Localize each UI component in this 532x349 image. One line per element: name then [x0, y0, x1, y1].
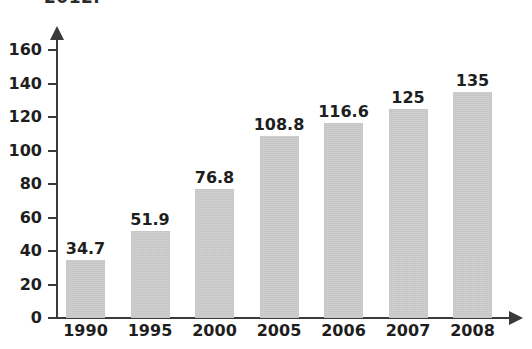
x-axis-label-1990: 1990 [54, 323, 117, 339]
bar-2008 [453, 92, 492, 318]
y-axis-tick [48, 284, 57, 286]
x-axis-label-2006: 2006 [312, 323, 375, 339]
cropped-caption-text: 2012. [44, 0, 100, 7]
bar-1990 [66, 260, 105, 318]
y-axis-tick [48, 317, 57, 319]
bar-2000 [195, 189, 234, 318]
y-axis-tick-label: 140 [0, 76, 42, 92]
y-axis-tick-label: 60 [0, 210, 42, 226]
y-axis-tick [48, 183, 57, 185]
y-axis-tick [48, 116, 57, 118]
x-axis-arrowhead-icon [509, 311, 523, 325]
bar-value-label: 34.7 [66, 241, 105, 257]
y-axis-tick-label: 100 [0, 143, 42, 159]
y-axis-tick-label: 40 [0, 243, 42, 259]
y-axis-arrowhead-icon [50, 26, 64, 40]
bar-1995 [131, 231, 170, 318]
bar-2007 [389, 109, 428, 318]
x-axis-label-2005: 2005 [248, 323, 311, 339]
y-axis-tick-label: 120 [0, 109, 42, 125]
y-axis-tick-label: 20 [0, 277, 42, 293]
bar-value-label: 76.8 [195, 170, 234, 186]
bar-value-label: 51.9 [130, 212, 169, 228]
bar-value-label: 108.8 [254, 117, 305, 133]
x-axis-label-2008: 2008 [441, 323, 504, 339]
y-axis-line [56, 38, 58, 319]
x-axis-label-2007: 2007 [377, 323, 440, 339]
x-axis-label-1995: 1995 [119, 323, 182, 339]
bar-value-label: 125 [391, 90, 424, 106]
y-axis-tick [48, 83, 57, 85]
y-axis-tick [48, 150, 57, 152]
y-axis-tick [48, 250, 57, 252]
bar-2005 [260, 136, 299, 318]
y-axis-tick [48, 49, 57, 51]
y-axis-tick [48, 217, 57, 219]
y-axis-tick-label: 160 [0, 42, 42, 58]
bar-value-label: 135 [456, 73, 489, 89]
bar-2006 [324, 123, 363, 318]
bar-value-label: 116.6 [318, 104, 369, 120]
x-axis-label-2000: 2000 [183, 323, 246, 339]
y-axis-tick-label: 80 [0, 176, 42, 192]
bar-chart: 2012. 020406080100120140160 34.751.976.8… [0, 0, 532, 349]
y-axis-tick-label: 0 [0, 310, 42, 326]
